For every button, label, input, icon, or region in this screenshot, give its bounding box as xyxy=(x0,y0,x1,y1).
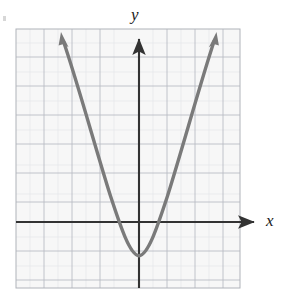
x-axis-label: x xyxy=(266,212,274,229)
parabola-graph-figure xyxy=(0,0,283,296)
y-axis-label: y xyxy=(131,6,139,23)
